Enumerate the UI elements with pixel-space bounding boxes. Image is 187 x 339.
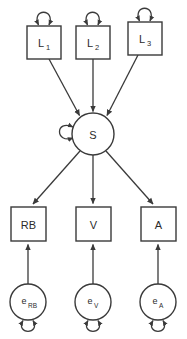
error-circle-ev: [75, 284, 111, 320]
observed-label-v: V: [90, 219, 98, 231]
variance-loop-l2-icon: [86, 12, 99, 25]
edge-group-error-to-observed: [28, 245, 158, 285]
variance-loop-erb-icon: [21, 321, 34, 332]
variance-loop-ev-icon: [86, 321, 99, 332]
observed-label-a: A: [155, 219, 163, 231]
edge-group-latent-to-factor: [49, 55, 138, 116]
error-label-erb: e: [21, 296, 26, 306]
error-label-ev: e: [87, 296, 92, 306]
error-subscript-ea: A: [159, 302, 164, 309]
node-v: V: [76, 207, 111, 241]
variance-loop-l3-icon: [138, 8, 151, 21]
node-ev: e V: [75, 284, 111, 331]
edge-l3-to-s: [107, 55, 138, 116]
latent-subscript-l2: 2: [95, 43, 99, 52]
error-circle-ea: [140, 284, 176, 320]
error-subscript-erb: RB: [28, 302, 37, 309]
variance-loop-ea-icon: [151, 321, 164, 332]
edge-s-to-rb: [33, 151, 80, 204]
observed-label-rb: RB: [21, 219, 36, 231]
latent-label-l1: L: [38, 37, 44, 49]
node-rb: RB: [11, 207, 46, 241]
latent-subscript-l3: 3: [147, 39, 151, 48]
node-l3: L 3: [128, 8, 162, 55]
edge-s-to-a: [106, 151, 153, 204]
sem-path-diagram: L 1 L 2 L 3 S RB V: [0, 0, 187, 339]
error-label-ea: e: [152, 296, 157, 306]
factor-label-s: S: [89, 129, 96, 141]
node-l2: L 2: [76, 12, 110, 59]
node-ea: e A: [140, 284, 176, 331]
node-l1: L 1: [27, 12, 61, 59]
variance-loop-l1-icon: [37, 12, 50, 25]
error-subscript-ev: V: [94, 302, 99, 309]
path-diagram-canvas: L 1 L 2 L 3 S RB V: [0, 0, 187, 339]
edge-l1-to-s: [49, 59, 80, 116]
latent-label-l2: L: [87, 37, 93, 49]
edge-group-factor-to-observed: [33, 151, 153, 204]
variance-loop-s-icon: [60, 125, 74, 139]
node-s: S: [60, 113, 115, 155]
node-erb: e RB: [10, 284, 46, 331]
latent-subscript-l1: 1: [46, 43, 50, 52]
latent-label-l3: L: [139, 33, 145, 45]
node-a: A: [141, 207, 176, 241]
